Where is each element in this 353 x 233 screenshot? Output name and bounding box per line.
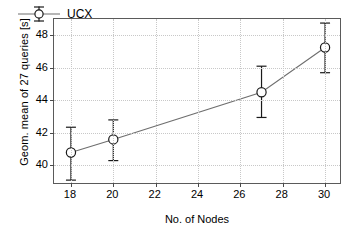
y-tick-label: 40 bbox=[20, 156, 48, 172]
x-tick-label: 18 bbox=[50, 188, 90, 200]
legend-marker-icon bbox=[18, 6, 60, 22]
data-point-marker bbox=[257, 88, 266, 97]
gridline-horizontal bbox=[54, 100, 340, 101]
gridline-horizontal bbox=[54, 133, 340, 134]
x-tick-label: 30 bbox=[304, 188, 344, 200]
x-tick-label: 20 bbox=[92, 188, 132, 200]
x-axis-tick bbox=[283, 183, 284, 187]
y-axis-tick bbox=[50, 68, 54, 69]
y-tick-label: 46 bbox=[20, 59, 48, 75]
y-axis-tick bbox=[50, 100, 54, 101]
x-axis-title: No. of Nodes bbox=[53, 213, 341, 225]
x-axis-tick bbox=[156, 183, 157, 187]
x-tick-label: 22 bbox=[135, 188, 175, 200]
gridline-horizontal bbox=[54, 35, 340, 36]
x-tick-label: 24 bbox=[177, 188, 217, 200]
gridline-horizontal bbox=[54, 68, 340, 69]
plot-area bbox=[53, 18, 341, 184]
gridline-horizontal bbox=[54, 165, 340, 166]
y-tick-label: 48 bbox=[20, 26, 48, 42]
x-axis-tick bbox=[113, 183, 114, 187]
legend-label-ucx: UCX bbox=[67, 7, 92, 21]
x-axis-tick bbox=[325, 183, 326, 187]
x-axis-tick bbox=[71, 183, 72, 187]
x-axis-tick bbox=[240, 183, 241, 187]
x-tick-label: 26 bbox=[219, 188, 259, 200]
y-axis-tick bbox=[50, 165, 54, 166]
chart-figure: Geom. mean of 27 queries [s] No. of Node… bbox=[0, 0, 353, 233]
y-tick-label: 42 bbox=[20, 124, 48, 140]
legend: UCX bbox=[18, 6, 92, 22]
y-axis-tick bbox=[50, 133, 54, 134]
y-axis-tick bbox=[50, 35, 54, 36]
x-axis-tick bbox=[198, 183, 199, 187]
x-tick-label: 28 bbox=[262, 188, 302, 200]
y-tick-label: 44 bbox=[20, 91, 48, 107]
